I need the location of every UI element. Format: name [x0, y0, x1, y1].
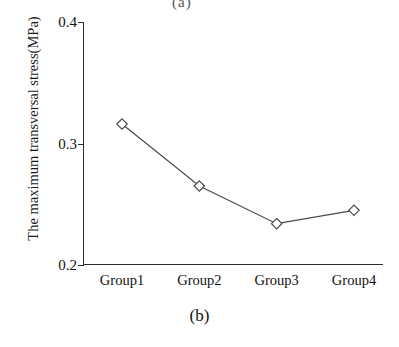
y-axis-tick-label: 0.3: [58, 136, 77, 151]
y-axis-tick-mark: [78, 144, 84, 145]
figure-caption: (b): [0, 306, 399, 326]
y-axis-tick-label: 0.2: [58, 258, 77, 273]
y-axis-tick-mark: [78, 22, 84, 23]
x-axis-tick-label: Group3: [255, 273, 299, 288]
x-axis-tick-label: Group2: [177, 273, 221, 288]
y-axis-tick-mark: [78, 265, 84, 266]
plot-area: 0.20.30.4Group1Group2Group3Group4: [83, 22, 383, 265]
x-axis-tick-label: Group4: [332, 273, 376, 288]
figure-container: (a) The maximum transversal stress(MPa) …: [0, 0, 399, 347]
line-chart-svg: [84, 22, 384, 265]
x-axis-tick-label: Group1: [100, 273, 144, 288]
data-point-marker: [271, 218, 281, 228]
y-axis-tick-label: 0.4: [58, 15, 77, 30]
upper-figure-caption-fragment: (a): [172, 0, 192, 11]
data-point-marker: [349, 205, 359, 215]
series-line: [122, 124, 354, 224]
y-axis-title: The maximum transversal stress(MPa): [25, 0, 42, 259]
